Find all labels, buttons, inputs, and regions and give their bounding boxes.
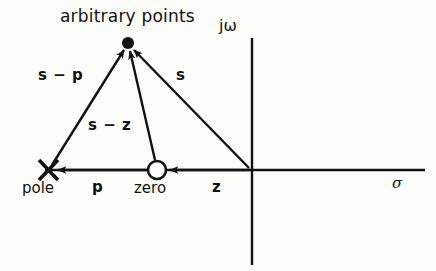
vector-label-s-minus-p: s − p (38, 68, 83, 83)
real-axis-label: σ (392, 176, 402, 191)
imaginary-axis-label: jω (219, 18, 237, 34)
zero-label: zero (134, 181, 166, 196)
vector-label-s: s (176, 68, 185, 83)
diagram-canvas (0, 0, 436, 271)
axis-group (45, 38, 425, 265)
vector-label-s-minus-z: s − z (88, 118, 131, 133)
vector-s (134, 50, 249, 168)
zero-marker-icon (148, 161, 166, 179)
vector-label-z: z (212, 180, 221, 195)
vector-label-p: p (92, 180, 103, 195)
marker-group (39, 37, 166, 180)
pole-label: pole (22, 181, 54, 196)
arbitrary-point-marker-icon (122, 37, 134, 49)
pole-zero-figure: arbitrary points s − p s − z s p z pole … (0, 0, 436, 271)
figure-title: arbitrary points (60, 8, 195, 25)
